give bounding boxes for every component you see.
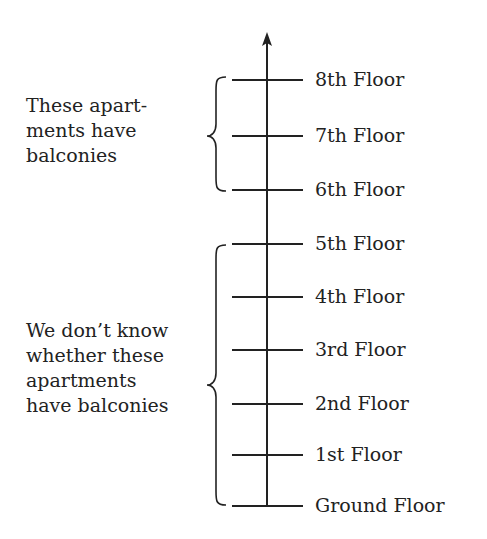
floor-label-4th: 4th Floor	[315, 286, 404, 306]
floor-label-8th: 8th Floor	[315, 69, 404, 89]
floor-label-7th: 7th Floor	[315, 125, 404, 145]
group-label-line: whether these	[26, 343, 169, 368]
group-label-balconies: These apart- ments have balconies	[26, 93, 147, 168]
floor-axis-graphic	[0, 0, 487, 539]
group-label-line: These apart-	[26, 93, 147, 118]
group-label-line: balconies	[26, 143, 147, 168]
group-label-line: We don’t know	[26, 318, 169, 343]
floor-label-1st: 1st Floor	[315, 444, 402, 464]
floor-diagram: 8th Floor 7th Floor 6th Floor 5th Floor …	[0, 0, 487, 539]
curly-brace	[207, 245, 226, 505]
floor-label-ground: Ground Floor	[315, 495, 445, 515]
group-label-line: ments have	[26, 118, 147, 143]
group-label-line: apartments	[26, 368, 169, 393]
group-label-line: have balconies	[26, 393, 169, 418]
curly-brace	[207, 77, 226, 191]
floor-label-2nd: 2nd Floor	[315, 393, 409, 413]
floor-label-6th: 6th Floor	[315, 179, 404, 199]
floor-label-3rd: 3rd Floor	[315, 339, 406, 359]
floor-label-5th: 5th Floor	[315, 233, 404, 253]
group-label-unknown: We don’t know whether these apartments h…	[26, 318, 169, 418]
